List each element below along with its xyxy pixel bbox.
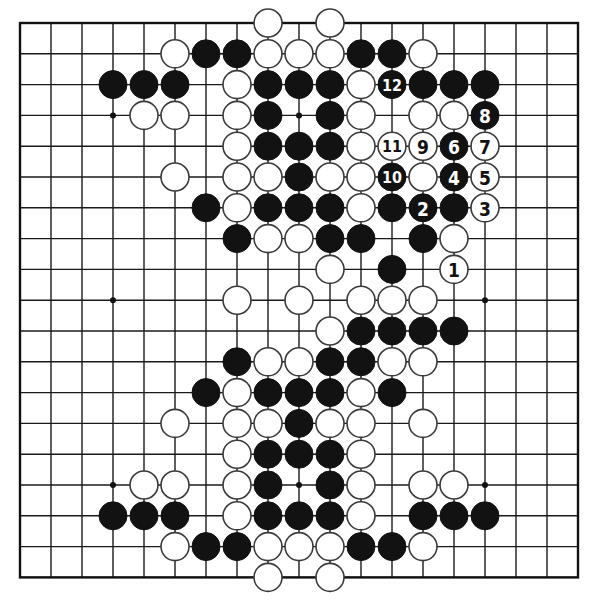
white-stone xyxy=(347,101,375,129)
black-stone xyxy=(285,440,313,468)
white-stone xyxy=(254,348,282,376)
move-number: 3 xyxy=(479,198,491,220)
white-stone xyxy=(223,163,251,191)
move-number: 7 xyxy=(479,136,491,158)
go-board-diagram: 123456789101112 xyxy=(0,0,589,614)
white-stone xyxy=(130,471,158,499)
white-stone xyxy=(223,132,251,160)
white-stone xyxy=(254,9,282,37)
white-stone xyxy=(223,409,251,437)
black-stone xyxy=(254,194,282,222)
black-stone xyxy=(378,379,406,407)
white-stone xyxy=(285,225,313,253)
white-stone xyxy=(161,409,189,437)
black-stone xyxy=(285,71,313,99)
white-stone xyxy=(285,348,313,376)
white-stone xyxy=(254,409,282,437)
numbered-black-stone: 6 xyxy=(440,132,468,160)
move-number: 10 xyxy=(382,169,402,187)
black-stone xyxy=(192,40,220,68)
white-stone xyxy=(409,409,437,437)
white-stone xyxy=(254,225,282,253)
black-stone xyxy=(192,194,220,222)
black-stone xyxy=(347,317,375,345)
white-stone xyxy=(254,40,282,68)
black-stone xyxy=(409,225,437,253)
white-stone xyxy=(347,163,375,191)
white-stone xyxy=(161,533,189,561)
black-stone xyxy=(378,255,406,283)
black-stone xyxy=(378,40,406,68)
white-stone xyxy=(347,471,375,499)
white-stone xyxy=(409,40,437,68)
white-stone xyxy=(409,471,437,499)
go-board[interactable]: 123456789101112 xyxy=(0,0,589,614)
black-stone xyxy=(316,471,344,499)
white-stone xyxy=(223,471,251,499)
white-stone xyxy=(440,471,468,499)
black-stone xyxy=(223,225,251,253)
white-stone xyxy=(347,440,375,468)
white-stone xyxy=(347,409,375,437)
black-stone xyxy=(223,40,251,68)
white-stone xyxy=(316,533,344,561)
white-stone xyxy=(316,40,344,68)
move-number: 8 xyxy=(479,105,491,127)
black-stone xyxy=(316,379,344,407)
white-stone xyxy=(409,348,437,376)
star-point xyxy=(296,482,302,488)
star-point xyxy=(296,112,302,118)
black-stone xyxy=(471,71,499,99)
white-stone xyxy=(409,101,437,129)
move-number: 5 xyxy=(479,167,491,189)
black-stone xyxy=(316,440,344,468)
numbered-white-stone: 7 xyxy=(471,132,499,160)
black-stone xyxy=(161,502,189,530)
black-stone xyxy=(192,379,220,407)
white-stone xyxy=(161,471,189,499)
black-stone xyxy=(130,71,158,99)
black-stone xyxy=(254,440,282,468)
black-stone xyxy=(440,71,468,99)
black-stone xyxy=(440,502,468,530)
black-stone xyxy=(285,194,313,222)
black-stone xyxy=(254,379,282,407)
white-stone xyxy=(130,101,158,129)
black-stone xyxy=(223,348,251,376)
numbered-white-stone: 3 xyxy=(471,194,499,222)
black-stone xyxy=(347,225,375,253)
black-stone xyxy=(316,101,344,129)
white-stone xyxy=(378,286,406,314)
white-stone xyxy=(161,101,189,129)
black-stone xyxy=(192,533,220,561)
numbered-black-stone: 10 xyxy=(378,163,406,191)
numbered-white-stone: 5 xyxy=(471,163,499,191)
star-point xyxy=(110,297,116,303)
numbered-white-stone: 11 xyxy=(378,132,406,160)
black-stone xyxy=(285,379,313,407)
black-stone xyxy=(316,194,344,222)
black-stone xyxy=(285,502,313,530)
white-stone xyxy=(347,71,375,99)
white-stone xyxy=(316,9,344,37)
black-stone xyxy=(316,502,344,530)
white-stone xyxy=(316,163,344,191)
star-point xyxy=(482,297,488,303)
black-stone xyxy=(347,40,375,68)
numbered-black-stone: 8 xyxy=(471,101,499,129)
white-stone xyxy=(254,533,282,561)
move-number: 11 xyxy=(382,138,402,156)
numbered-black-stone: 4 xyxy=(440,163,468,191)
black-stone xyxy=(378,533,406,561)
white-stone xyxy=(316,563,344,591)
move-number: 2 xyxy=(417,198,429,220)
white-stone xyxy=(285,533,313,561)
black-stone xyxy=(254,132,282,160)
black-stone xyxy=(409,317,437,345)
white-stone xyxy=(254,563,282,591)
black-stone xyxy=(161,71,189,99)
white-stone xyxy=(440,101,468,129)
black-stone xyxy=(99,502,127,530)
black-stone xyxy=(254,71,282,99)
move-number: 4 xyxy=(448,167,460,189)
